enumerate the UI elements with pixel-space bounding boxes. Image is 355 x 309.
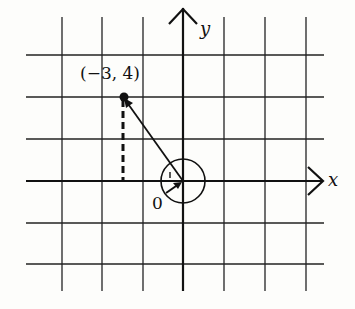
coordinate-plane-diagram: y x (−3, 4) 0	[0, 0, 355, 309]
origin-label: 0	[152, 193, 163, 213]
y-axis	[169, 8, 197, 291]
x-axis-label: x	[328, 169, 338, 190]
y-axis-label: y	[199, 18, 211, 39]
x-axis	[26, 167, 323, 195]
grid	[26, 17, 324, 291]
vector-line	[126, 101, 183, 181]
point-marker	[120, 93, 129, 102]
point-label: (−3, 4)	[80, 63, 140, 83]
